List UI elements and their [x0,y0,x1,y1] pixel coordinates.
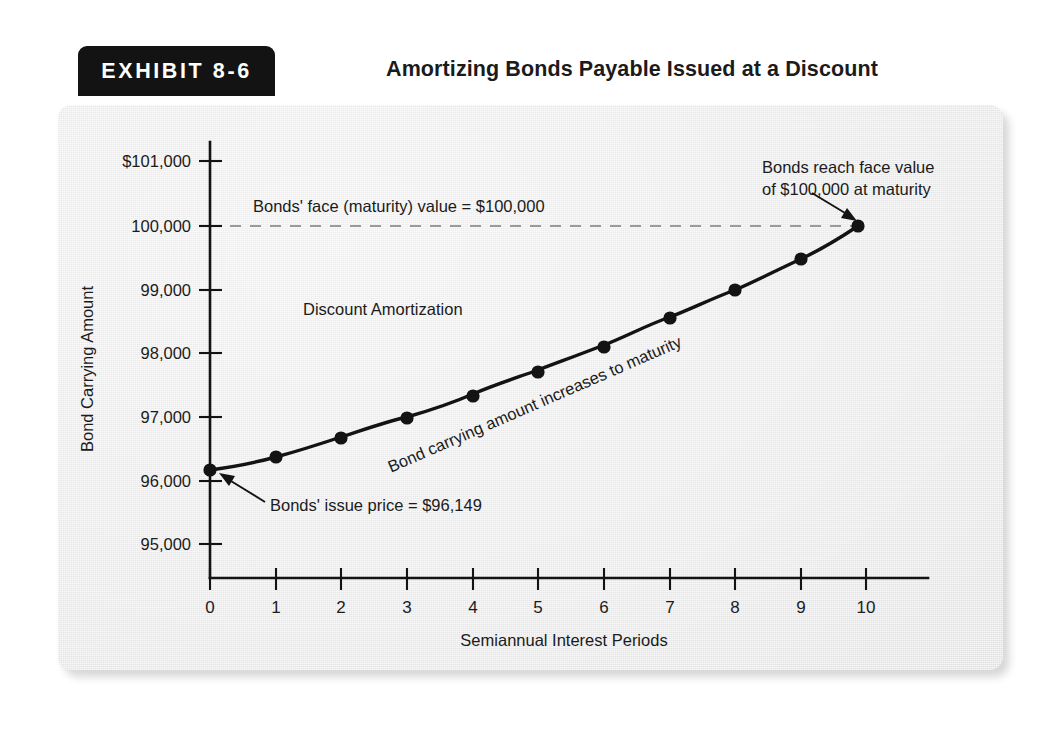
exhibit-number-tag: EXHIBIT 8-6 [78,46,275,96]
x-tick-label-9: 9 [796,598,805,618]
x-tick-label-10: 10 [857,598,876,618]
x-tick-label-3: 3 [402,598,411,618]
y-tick-label-96000: 96,000 [96,472,191,491]
y-tick-label-97000: 97,000 [96,408,191,427]
y-tick-label-98000: 98,000 [96,344,191,363]
y-tick-label-101000: $101,000 [96,152,191,171]
y-axis-title: Bond Carrying Amount [78,286,97,452]
y-tick-label-99000: 99,000 [96,281,191,300]
exhibit-figure: EXHIBIT 8-6 Amortizing Bonds Payable Iss… [0,0,1052,735]
exhibit-title: Amortizing Bonds Payable Issued at a Dis… [386,57,878,82]
x-tick-label-1: 1 [271,598,280,618]
face-value-annotation: Bonds' face (maturity) value = $100,000 [253,196,545,217]
maturity-annotation-line1: Bonds reach face value [762,157,934,179]
x-tick-label-2: 2 [336,598,345,618]
x-tick-label-4: 4 [468,598,477,618]
x-tick-label-0: 0 [205,598,214,618]
exhibit-number-label: EXHIBIT 8-6 [101,59,251,84]
x-axis-title: Semiannual Interest Periods [460,631,667,650]
x-tick-label-6: 6 [599,598,608,618]
discount-amortization-annotation: Discount Amortization [303,299,463,320]
y-tick-label-100000: 100,000 [96,217,191,236]
x-tick-label-5: 5 [533,598,542,618]
issue-price-annotation: Bonds' issue price = $96,149 [270,495,482,516]
y-tick-label-95000: 95,000 [96,535,191,554]
x-tick-label-8: 8 [730,598,739,618]
maturity-annotation-line2: of $100,000 at maturity [762,179,931,201]
x-tick-label-7: 7 [665,598,674,618]
